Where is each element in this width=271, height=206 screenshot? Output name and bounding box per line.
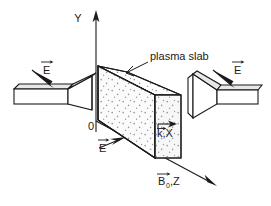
left-waveguide-top xyxy=(14,84,73,89)
left-waveguide-front xyxy=(14,89,68,104)
z-axis-arrowhead xyxy=(202,175,217,186)
b0-axis-suffix: ,Z xyxy=(170,175,180,187)
left-horn-antenna xyxy=(14,73,96,110)
figure-canvas: Y xyxy=(0,0,271,206)
right-field-label: E xyxy=(234,64,241,76)
k-axis-label-group: k,X xyxy=(157,127,174,139)
left-field-label: E xyxy=(43,64,50,76)
right-waveguide-front xyxy=(217,90,258,104)
b0-axis-label-group: B 0 ,Z xyxy=(157,172,180,189)
right-field-label-group: E xyxy=(232,60,245,76)
bottom-field-label-group: E xyxy=(98,138,110,154)
y-axis-label: Y xyxy=(74,12,82,24)
origin-label: 0 xyxy=(88,120,94,132)
right-horn-aperture xyxy=(188,74,193,118)
b0-axis-label: B xyxy=(158,175,165,187)
plasma-slab xyxy=(95,62,187,162)
right-waveguide-top xyxy=(217,85,262,90)
slab-leader-line xyxy=(126,62,148,76)
bottom-field-label: E xyxy=(99,142,106,154)
plasma-slab-diagram: Y xyxy=(0,0,271,206)
plasma-slab-label: plasma slab xyxy=(150,50,209,62)
left-field-label-group: E xyxy=(41,60,54,76)
